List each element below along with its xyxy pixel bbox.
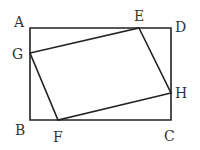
label-e: E [134, 8, 144, 24]
label-f: F [53, 129, 63, 145]
label-b: B [15, 122, 25, 138]
label-c: C [164, 128, 175, 144]
parallelogram-efgh [30, 28, 171, 120]
label-a: A [13, 14, 25, 30]
label-h: H [175, 85, 187, 101]
rectangle-abcd [30, 28, 171, 120]
geometry-diagram: A E D G H B F C [0, 0, 200, 150]
label-d: D [175, 19, 186, 35]
label-g: G [12, 46, 23, 62]
